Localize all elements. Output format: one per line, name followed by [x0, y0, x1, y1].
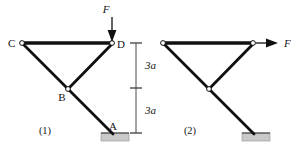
case-label-2: (2) — [184, 125, 197, 137]
node-label-C: C — [8, 37, 15, 49]
dimension-label-lower: 3a — [144, 104, 157, 116]
dimension-label-upper: 3a — [144, 59, 157, 71]
force-label-1: F — [102, 3, 110, 15]
member-DB — [68, 44, 112, 89]
node-label-D: D — [117, 38, 125, 50]
node-label-A: A — [109, 120, 117, 132]
fixed-support-A — [101, 133, 129, 141]
pin-joint-B2 — [207, 87, 212, 92]
fixed-support-A2 — [242, 133, 270, 141]
force-arrow-head-1 — [108, 30, 117, 42]
force-arrow-head-2 — [266, 39, 278, 48]
pin-joint-B — [66, 87, 71, 92]
figure-canvas: C D B A F (1) 3a 3a — [0, 0, 295, 151]
member-DB-2 — [209, 44, 253, 89]
force-label-2: F — [283, 37, 291, 49]
dimension-chain: 3a 3a — [130, 43, 157, 133]
pin-joint-C — [20, 41, 25, 46]
diagram-1: C D B A F (1) — [8, 3, 129, 141]
truss-figure: C D B A F (1) 3a 3a — [0, 0, 295, 151]
diagram-2: F (2) — [161, 37, 291, 141]
node-label-B: B — [58, 91, 65, 103]
case-label-1: (1) — [39, 125, 52, 137]
pin-joint-C2 — [161, 41, 166, 46]
pin-joint-D2 — [251, 41, 256, 46]
